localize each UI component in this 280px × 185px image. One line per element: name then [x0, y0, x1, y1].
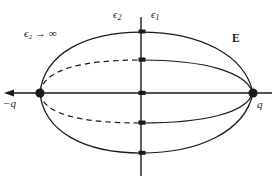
- interface-crossing-ticks: [139, 30, 146, 155]
- positive-charge-label: q: [257, 99, 263, 110]
- electric-field-label: E: [232, 33, 240, 45]
- crossing-tick-lower-inner: [139, 121, 146, 125]
- epsilon-2-top-label: ϵ2: [113, 9, 121, 22]
- crossing-tick-center: [139, 91, 146, 95]
- crossing-tick-upper-inner: [139, 58, 146, 62]
- inner-field-line-upper-solid: [141, 60, 253, 93]
- figure-container: ϵ2 ϵ1 ϵ₂ → ∞ E −q q: [0, 0, 280, 185]
- epsilon-2-subscript: 2: [117, 13, 121, 22]
- crossing-tick-top: [139, 30, 146, 34]
- inner-field-line-upper-dashed: [40, 60, 141, 93]
- inner-field-line-lower-solid: [141, 93, 253, 123]
- inner-field-line-lower-dashed: [40, 93, 141, 123]
- epsilon-1-subscript: 1: [155, 13, 159, 22]
- outer-field-line-upper: [40, 32, 253, 93]
- crossing-tick-bottom: [139, 151, 146, 155]
- epsilon-1-top-label: ϵ1: [151, 9, 159, 22]
- left-arrowhead-icon: [4, 89, 14, 96]
- positive-charge-dot: [248, 88, 257, 97]
- epsilon-2-limit-label: ϵ₂ → ∞: [24, 28, 57, 39]
- negative-charge-dot: [35, 88, 44, 97]
- negative-charge-label: −q: [3, 98, 16, 109]
